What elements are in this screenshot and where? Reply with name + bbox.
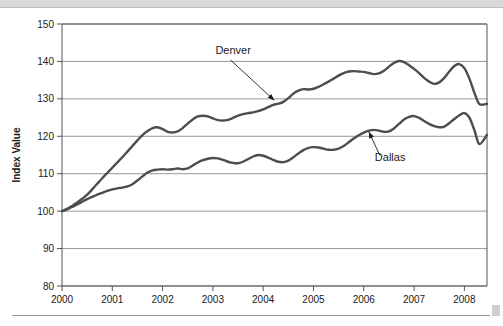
y-tick-label: 130 bbox=[37, 93, 54, 104]
bottom-divider-rule bbox=[12, 315, 490, 316]
y-axis-title-text: Index Value bbox=[11, 127, 22, 182]
x-tick-label: 2002 bbox=[151, 294, 174, 305]
annotation-label-denver: Denver bbox=[215, 44, 251, 56]
y-tick-label: 120 bbox=[37, 131, 54, 142]
x-tick-label: 2005 bbox=[302, 294, 325, 305]
x-tick-label: 2006 bbox=[353, 294, 376, 305]
y-tick-label: 110 bbox=[38, 168, 54, 179]
annotation-arrow-line-denver bbox=[230, 60, 274, 100]
series-line-dallas bbox=[62, 113, 487, 211]
y-tick-label: 90 bbox=[43, 243, 55, 254]
y-axis-title: Index Value bbox=[11, 127, 22, 182]
x-tick-label: 2001 bbox=[101, 294, 124, 305]
figure-container: 200020012002200320042005200620072008 809… bbox=[0, 0, 503, 326]
x-tick-label: 2003 bbox=[202, 294, 225, 305]
corner-marker bbox=[492, 305, 500, 316]
x-tick-label: 2000 bbox=[51, 294, 74, 305]
annotation-arrowhead-dallas bbox=[369, 132, 374, 139]
y-tick-label: 100 bbox=[37, 206, 54, 217]
x-tick-label: 2004 bbox=[252, 294, 275, 305]
series-annotations: DenverDallas bbox=[215, 44, 406, 163]
x-tick-label: 2008 bbox=[453, 294, 476, 305]
line-chart: 200020012002200320042005200620072008 809… bbox=[0, 0, 503, 326]
y-tick-label: 140 bbox=[37, 56, 54, 67]
x-tick-label: 2007 bbox=[403, 294, 426, 305]
annotation-label-dallas: Dallas bbox=[375, 151, 406, 163]
y-tick-label: 80 bbox=[43, 281, 55, 292]
y-axis-ticks: 8090100110120130140150 bbox=[37, 19, 62, 292]
y-tick-label: 150 bbox=[37, 19, 54, 30]
x-axis-ticks: 200020012002200320042005200620072008 bbox=[51, 286, 476, 305]
